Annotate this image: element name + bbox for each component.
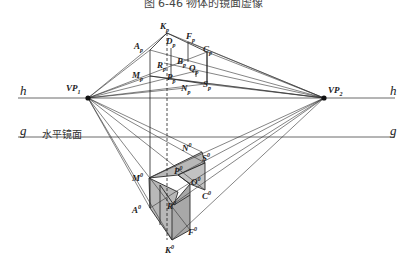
label-K0: K0 [165, 244, 174, 255]
label-C0: C0 [202, 190, 211, 201]
horizon-label-right: h [390, 84, 397, 97]
ground-label-left: g [20, 124, 27, 137]
vp1-dot [85, 95, 90, 100]
label-A0: A0 [132, 204, 141, 215]
label-Qp: Qp [189, 64, 199, 75]
label-Kp: Kp [160, 22, 169, 33]
vp1-label: VP1 [66, 84, 81, 95]
label-R0: R0 [167, 200, 176, 211]
label-Ap: Ap [134, 42, 143, 53]
label-Sp: Sp [203, 80, 211, 91]
vp2-dot [321, 95, 326, 100]
label-O0: O0 [191, 176, 201, 187]
label-Np: Np [181, 84, 191, 95]
label-P0: P0 [174, 165, 183, 176]
label-F0: F0 [188, 226, 197, 237]
label-Dp: Dp [166, 37, 176, 48]
label-Bp: Bp [177, 57, 186, 68]
mirror-plane-label: 水平镜面 [42, 126, 82, 141]
ground-label-right: g [390, 124, 397, 137]
label-N0: N0 [182, 142, 192, 153]
label-S0: S0 [202, 152, 210, 163]
horizon-label-left: h [20, 84, 27, 97]
vp2-label: VP2 [328, 86, 343, 97]
label-Cp: Cp [203, 45, 212, 56]
label-Mp: Mp [132, 71, 143, 82]
label-Fp: Fp [186, 32, 195, 43]
label-Pp: Pp [167, 73, 176, 84]
label-Rp: Rp [157, 61, 166, 72]
label-M0: M0 [132, 172, 143, 183]
